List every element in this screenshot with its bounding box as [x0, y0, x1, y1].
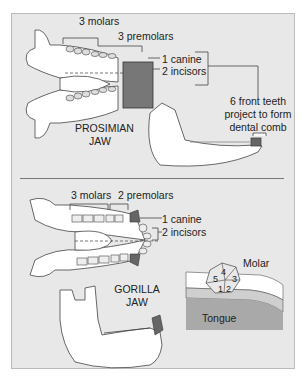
gorilla-premolars-label: 2 premolars — [118, 189, 173, 201]
cusp-1: 1 — [218, 283, 223, 295]
comb-line-2: project to form — [213, 108, 303, 121]
prosimian-premolars-label: 3 premolars — [118, 30, 173, 42]
gorilla-title-line2: JAW — [112, 296, 162, 309]
gorilla-canine-label: 1 canine — [162, 213, 202, 225]
gorilla-incisors-label: 2 incisors — [162, 226, 206, 238]
prosimian-canine-label: 1 canine — [162, 53, 202, 65]
gorilla-title-line1: GORILLA — [112, 283, 162, 296]
prosimian-title-line1: PROSIMIAN — [75, 122, 125, 135]
cusp-2: 2 — [226, 283, 231, 295]
dental-comb-label: 6 front teeth project to form dental com… — [213, 95, 303, 134]
prosimian-incisors-label: 2 incisors — [162, 65, 206, 77]
prosimian-jaw-title: PROSIMIAN JAW — [75, 122, 125, 148]
prosimian-title-line2: JAW — [75, 135, 125, 148]
molar-label: Molar — [243, 257, 269, 269]
gorilla-molars-label: 3 molars — [71, 189, 111, 201]
comb-line-1: 6 front teeth — [213, 95, 303, 108]
gorilla-jaw-title: GORILLA JAW — [112, 283, 162, 309]
gorilla-top-jaw — [30, 198, 145, 276]
tongue-label: Tongue — [202, 312, 236, 324]
cusp-3: 3 — [232, 273, 237, 285]
prosimian-molars-label: 3 molars — [79, 15, 119, 27]
cusp-4: 4 — [221, 266, 226, 278]
comb-line-3: dental comb — [213, 121, 303, 134]
